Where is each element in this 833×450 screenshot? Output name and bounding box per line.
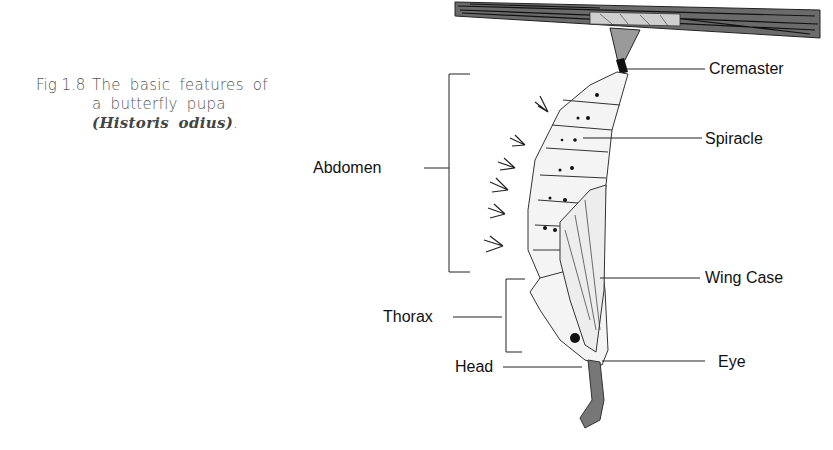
label-cremaster: Cremaster — [709, 60, 784, 78]
thorax-bracket — [453, 279, 525, 352]
abdomen-bracket — [424, 74, 470, 272]
eye-spot — [570, 333, 580, 343]
label-eye: Eye — [718, 353, 746, 371]
pupa-body — [528, 72, 628, 428]
silk-pad — [610, 28, 640, 62]
label-head: Head — [455, 358, 493, 376]
label-abdomen: Abdomen — [313, 159, 382, 177]
label-wing-case: Wing Case — [705, 269, 783, 287]
cremaster-hook — [616, 58, 628, 74]
label-spiracle: Spiracle — [705, 130, 763, 148]
label-thorax: Thorax — [383, 308, 433, 326]
